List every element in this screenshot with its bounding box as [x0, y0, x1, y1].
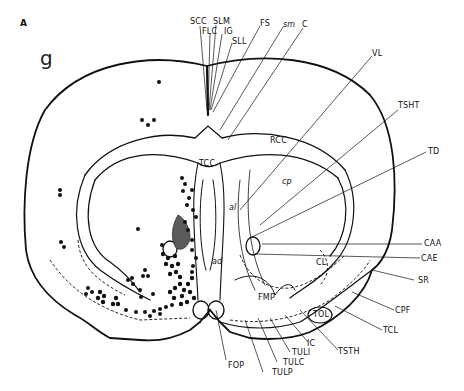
- label-slm: SLM: [213, 18, 230, 26]
- corpus-callosum-lower: [95, 155, 338, 180]
- leader-lines: [200, 25, 426, 372]
- label-ic: IC: [307, 340, 315, 348]
- panel-label: A: [20, 18, 27, 28]
- lesion-area: [172, 215, 190, 249]
- label-al: al: [229, 204, 237, 212]
- label-ad: ad: [212, 258, 222, 266]
- label-tcl: TCL: [383, 327, 398, 335]
- label-caa: CAA: [424, 240, 441, 248]
- septum-right: [220, 163, 224, 300]
- label-fmp: FMP: [258, 294, 275, 302]
- label-ig: IG: [224, 28, 233, 36]
- labeled-cells: [58, 80, 198, 318]
- label-c: C: [302, 21, 308, 29]
- label-cae: CAE: [421, 255, 438, 263]
- internal-capsule-lines: [238, 170, 265, 290]
- label-fop: FOP: [228, 362, 244, 370]
- label-tuli: TULI: [292, 349, 310, 357]
- label-rcc: RCC: [270, 137, 287, 145]
- label-tol: TOL: [313, 311, 329, 319]
- septal-loop-left: [200, 180, 206, 270]
- ventral-band-right: [220, 270, 372, 328]
- label-sm: sm: [283, 21, 295, 29]
- left-inner-outline-2: [88, 180, 140, 292]
- label-tulc: TULC: [283, 359, 305, 367]
- label-scc: SCC: [190, 18, 207, 26]
- label-cl: CL: [316, 259, 326, 267]
- septum-left: [194, 163, 198, 300]
- dashed-boundary-left: [50, 260, 190, 320]
- left-inner-outline: [77, 175, 150, 300]
- label-sll: SLL: [232, 38, 247, 46]
- label-tcc: TCC: [199, 160, 215, 168]
- label-sr: SR: [418, 277, 429, 285]
- label-fs: FS: [260, 20, 270, 28]
- label-cpf: CPF: [395, 307, 411, 315]
- section-level-label: g: [40, 46, 53, 70]
- fop-left: [193, 301, 209, 319]
- dashed-boundary-right-2: [240, 255, 345, 288]
- label-td: TD: [428, 148, 439, 156]
- brain-section-figure: A g SCC SLM FLC IG SLL FS sm C VL TSHT T…: [0, 0, 464, 391]
- label-vl: VL: [372, 50, 382, 58]
- dashed-cl-boundary: [320, 250, 328, 285]
- label-tulp: TULP: [272, 369, 293, 377]
- label-tsht: TSHT: [398, 102, 420, 110]
- label-tsth: TSTH: [338, 348, 360, 356]
- right-inner-outline: [290, 170, 354, 298]
- label-flc: FLC: [202, 28, 217, 36]
- label-cp: cp: [282, 178, 292, 186]
- right-hemisphere-outline: [207, 58, 395, 339]
